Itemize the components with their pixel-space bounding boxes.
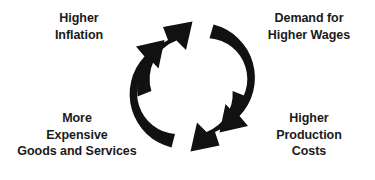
cycle-node-label-demand-higher-wages: Demand for Higher Wages: [246, 10, 372, 43]
cycle-node-label-higher-inflation: Higher Inflation: [14, 10, 144, 43]
cycle-node-label-higher-production-costs: Higher Production Costs: [250, 110, 368, 160]
cycle-diagram: Higher Inflation Demand for Higher Wages…: [0, 0, 375, 180]
cycle-node-label-more-expensive-goods: More Expensive Goods and Services: [2, 110, 152, 160]
